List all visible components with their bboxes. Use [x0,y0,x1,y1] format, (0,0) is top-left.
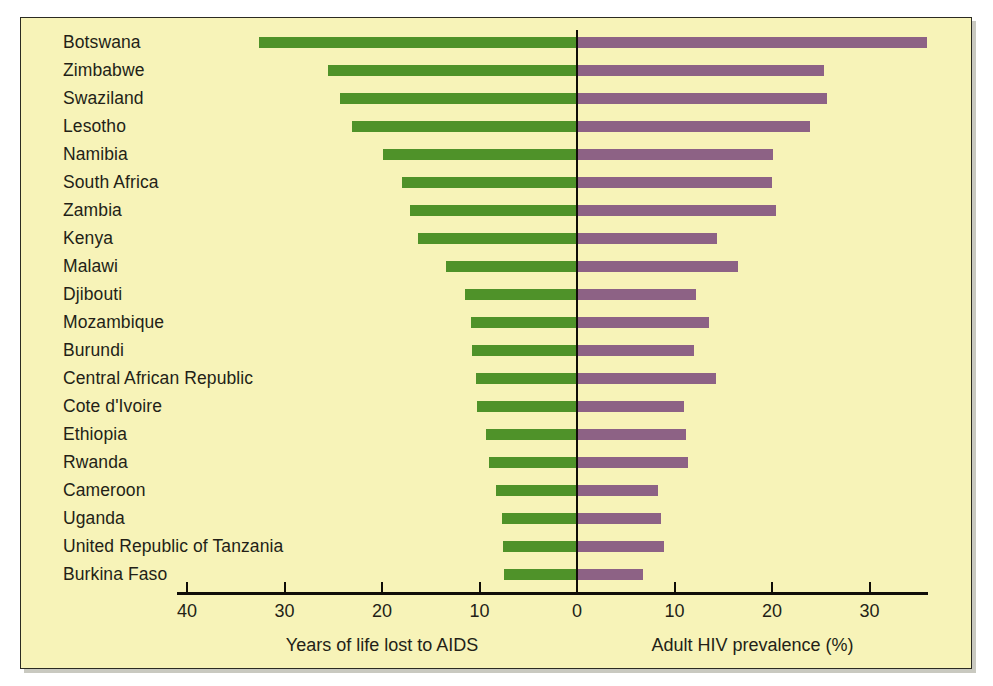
bar-years-lost [476,373,577,384]
bar-years-lost [496,485,577,496]
bar-hiv-prevalence [577,289,696,300]
chart-figure: BotswanaZimbabweSwazilandLesothoNamibiaS… [0,0,993,686]
axis-tick-label: 0 [547,601,607,622]
bar-hiv-prevalence [577,373,716,384]
bar-years-lost [418,233,577,244]
bar-hiv-prevalence [577,205,776,216]
axis-tick [186,582,188,592]
axis-tick-label: 30 [840,601,900,622]
bar-hiv-prevalence [577,37,927,48]
bar-years-lost [340,93,577,104]
right-axis-title: Adult HIV prevalence (%) [577,635,928,656]
bar-years-lost [465,289,577,300]
category-label: Malawi [63,253,118,279]
category-label: Kenya [63,225,113,251]
axis-tick [479,582,481,592]
category-label: Cameroon [63,477,146,503]
axis-tick [284,582,286,592]
bar-years-lost [477,401,577,412]
axis-tick [771,582,773,592]
bar-hiv-prevalence [577,65,824,76]
bar-hiv-prevalence [577,261,738,272]
bar-years-lost [446,261,577,272]
bar-years-lost [352,121,577,132]
axis-tick-label: 10 [645,601,705,622]
axis-tick-label: 20 [352,601,412,622]
bar-hiv-prevalence [577,149,773,160]
bar-hiv-prevalence [577,429,686,440]
axis-tick [576,582,578,592]
left-axis-title: Years of life lost to AIDS [187,635,577,656]
bar-hiv-prevalence [577,541,664,552]
bar-years-lost [489,457,577,468]
bar-hiv-prevalence [577,485,658,496]
category-label: United Republic of Tanzania [63,533,283,559]
bar-hiv-prevalence [577,177,772,188]
x-axis-line [177,592,928,595]
bar-hiv-prevalence [577,513,661,524]
category-label: Zimbabwe [63,57,145,83]
bar-years-lost [259,37,577,48]
category-label: Burundi [63,337,124,363]
category-label: Ethiopia [63,421,127,447]
bar-hiv-prevalence [577,317,709,328]
bar-hiv-prevalence [577,121,810,132]
zero-axis-line [576,30,578,592]
category-label: Djibouti [63,281,122,307]
axis-tick-label: 20 [742,601,802,622]
bar-hiv-prevalence [577,93,827,104]
axis-tick [381,582,383,592]
bar-hiv-prevalence [577,401,684,412]
category-label: Rwanda [63,449,128,475]
axis-tick-label: 10 [450,601,510,622]
axis-tick-label: 30 [255,601,315,622]
bar-years-lost [328,65,577,76]
bar-years-lost [471,317,577,328]
category-label: Lesotho [63,113,126,139]
bar-years-lost [472,345,577,356]
category-label: Botswana [63,29,141,55]
category-label: Uganda [63,505,125,531]
category-label: Namibia [63,141,128,167]
category-label: Central African Republic [63,365,253,391]
category-label: Swaziland [63,85,144,111]
category-label: Mozambique [63,309,164,335]
bar-years-lost [504,569,577,580]
bar-hiv-prevalence [577,345,694,356]
bar-years-lost [383,149,577,160]
bar-years-lost [503,541,577,552]
plot-area: BotswanaZimbabweSwazilandLesothoNamibiaS… [20,17,972,669]
bar-years-lost [402,177,577,188]
axis-tick-label: 40 [157,601,217,622]
axis-tick [674,582,676,592]
category-label: Burkina Faso [63,561,167,587]
bar-hiv-prevalence [577,569,643,580]
axis-tick [869,582,871,592]
category-label: Cote d'Ivoire [63,393,162,419]
bar-years-lost [486,429,577,440]
bar-years-lost [410,205,577,216]
category-label: South Africa [63,169,159,195]
bar-hiv-prevalence [577,457,688,468]
bar-hiv-prevalence [577,233,717,244]
category-label: Zambia [63,197,122,223]
bar-years-lost [502,513,577,524]
